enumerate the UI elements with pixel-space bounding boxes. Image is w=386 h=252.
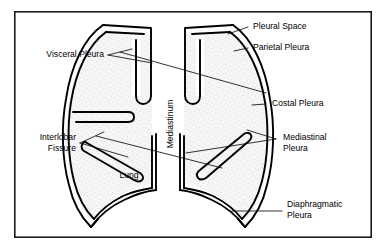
- label-diaphragmatic-pleura-line1: Diaphragmatic: [287, 199, 343, 209]
- label-interlobar-fissure-line1: Interlobar: [40, 132, 76, 142]
- figure-container: Pleural Space Parietal Pleura Costal Ple…: [0, 0, 386, 252]
- label-pleural-space: Pleural Space: [253, 21, 307, 31]
- label-costal-pleura: Costal Pleura: [272, 98, 324, 108]
- pleural-anatomy-diagram: Pleural Space Parietal Pleura Costal Ple…: [0, 0, 386, 252]
- label-mediastinal-pleura-line2: Pleura: [283, 143, 308, 153]
- label-lung: Lung: [119, 170, 138, 180]
- label-mediastinum: Mediastinum: [165, 100, 175, 149]
- right-lung-group: [176, 25, 276, 230]
- label-mediastinal-pleura-line1: Mediastinal: [283, 132, 327, 142]
- right-lung-parenchyma: [176, 25, 276, 230]
- label-interlobar-fissure-line2: Fissure: [48, 143, 76, 153]
- label-visceral-pleura: Visceral Pleura: [46, 49, 104, 59]
- label-parietal-pleura: Parietal Pleura: [253, 42, 310, 52]
- label-diaphragmatic-pleura-line2: Pleura: [287, 210, 312, 220]
